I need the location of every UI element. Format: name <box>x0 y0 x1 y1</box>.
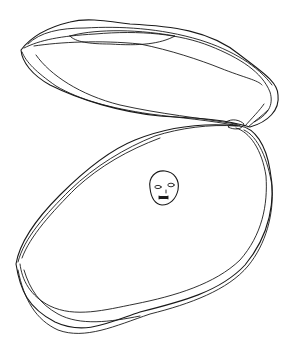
left-eye-icon <box>155 185 161 188</box>
oyster-drawing: Open oyster shell with a pearl that has … <box>0 0 297 361</box>
mouth-icon <box>159 196 168 199</box>
lower-shell <box>16 125 272 334</box>
pearl-outline <box>150 171 179 205</box>
upper-shell <box>21 20 278 127</box>
pearl-face <box>150 171 179 205</box>
right-eye-icon <box>168 183 174 187</box>
sketch-canvas <box>0 0 297 361</box>
